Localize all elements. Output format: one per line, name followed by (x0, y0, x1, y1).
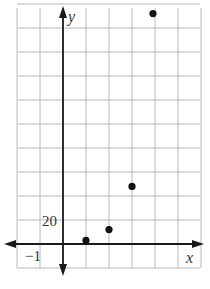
data-point (128, 183, 135, 190)
x-axis-right-arrow-icon (192, 240, 204, 248)
y-axis-label: y (68, 9, 75, 25)
axes (4, 6, 204, 276)
y-tick-label: 20 (42, 214, 57, 229)
data-point (105, 226, 112, 233)
chart-plot-area (0, 0, 210, 289)
y-axis-down-arrow-icon (59, 264, 67, 276)
x-axis-label: x (186, 250, 193, 266)
x-tick-label: −1 (25, 249, 41, 264)
x-axis-left-arrow-icon (4, 240, 16, 248)
y-axis-up-arrow-icon (59, 6, 67, 18)
data-points (82, 10, 156, 244)
data-point (82, 237, 89, 244)
data-point (149, 10, 156, 17)
